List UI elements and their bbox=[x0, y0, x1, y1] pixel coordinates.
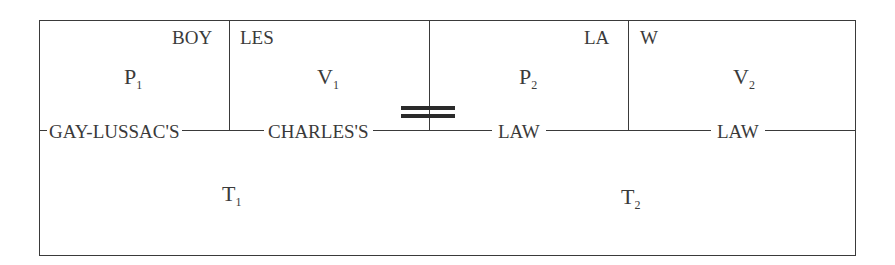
divider-p1-v1 bbox=[229, 20, 230, 131]
label-law-left: LAW bbox=[492, 122, 546, 141]
variable-v1: V1 bbox=[317, 66, 339, 91]
variable-p2: P2 bbox=[519, 66, 537, 91]
label-charless: CHARLES'S bbox=[264, 122, 373, 141]
label-gay-lussacs: GAY-LUSSAC'S bbox=[47, 122, 182, 141]
variable-p1: P1 bbox=[124, 66, 142, 91]
boyle-fragment-les: LES bbox=[240, 28, 274, 47]
box-top-border bbox=[39, 20, 856, 21]
divider-p2-v2 bbox=[628, 20, 629, 131]
box-left-border bbox=[39, 20, 40, 256]
variable-t2: T2 bbox=[621, 186, 640, 211]
label-law-right: LAW bbox=[711, 122, 765, 141]
variable-v2: V2 bbox=[733, 66, 755, 91]
boyle-fragment-w: W bbox=[640, 28, 658, 47]
boyle-fragment-la: LA bbox=[584, 28, 609, 47]
variable-t1: T1 bbox=[222, 183, 241, 208]
boyle-fragment-boy: BOY bbox=[172, 28, 212, 47]
box-bottom-border bbox=[39, 255, 856, 256]
box-right-border bbox=[855, 20, 856, 256]
